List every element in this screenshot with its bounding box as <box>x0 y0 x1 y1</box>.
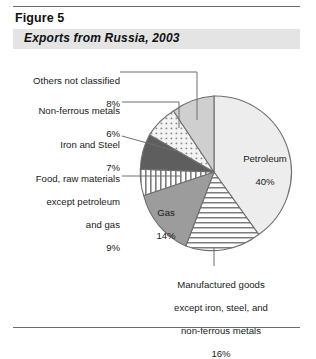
label-manufactured-line2: except iron, steel, and <box>174 302 268 313</box>
figure-bottom-rule <box>13 327 300 328</box>
label-gas: Gas 14% <box>146 196 186 242</box>
label-manufactured-value: 16% <box>211 348 230 359</box>
label-gas-value: 14% <box>156 230 175 241</box>
label-food-line2: except petroleum <box>46 196 120 207</box>
label-manufactured-goods: Manufactured goods except iron, steel, a… <box>133 268 309 359</box>
label-others-text: Others not classified <box>33 75 120 86</box>
label-petroleum-text: Petroleum <box>243 153 287 164</box>
pie-chart: Others not classified 8% Non-ferrous met… <box>0 52 316 327</box>
label-food-raw-materials: Food, raw materials except petroleum and… <box>0 162 120 253</box>
label-gas-text: Gas <box>157 207 175 218</box>
label-food-value: 9% <box>106 242 120 253</box>
label-nonferrous-text: Non-ferrous metals <box>38 105 120 116</box>
label-manufactured-line1: Manufactured goods <box>177 279 264 290</box>
label-food-line1: Food, raw materials <box>36 173 120 184</box>
label-iron-text: Iron and Steel <box>60 139 120 150</box>
figure-top-rule <box>13 6 300 7</box>
figure-title: Exports from Russia, 2003 <box>24 31 180 45</box>
label-petroleum-value: 40% <box>255 176 274 187</box>
label-petroleum: Petroleum 40% <box>228 142 302 188</box>
label-food-line3: and gas <box>86 219 120 230</box>
figure-number: Figure 5 <box>15 11 64 25</box>
